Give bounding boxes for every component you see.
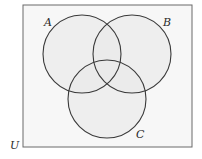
universe-label: U <box>10 139 20 152</box>
set-a-label: A <box>43 16 52 29</box>
venn-diagram: A B C U <box>0 0 202 159</box>
set-b-label: B <box>162 16 171 29</box>
set-c-label: C <box>136 128 145 141</box>
